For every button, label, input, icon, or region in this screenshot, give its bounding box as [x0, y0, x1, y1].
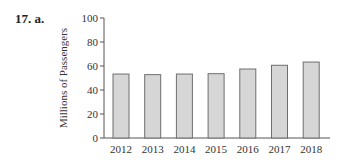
bar-2012: [113, 74, 129, 138]
bar-2014: [176, 74, 192, 138]
y-axis: 020406080100: [82, 12, 105, 144]
bars: [113, 62, 319, 138]
x-tick-label: 2018: [300, 143, 323, 155]
y-tick-label: 60: [87, 60, 99, 72]
x-tick-label: 2012: [110, 143, 132, 155]
y-axis-label: Millions of Passengers: [57, 28, 69, 128]
x-tick-label: 2014: [173, 143, 196, 155]
y-tick-label: 40: [87, 84, 99, 96]
y-tick-label: 100: [82, 12, 99, 24]
x-axis: 2012201320142015201620172018: [104, 138, 330, 155]
bar-2018: [303, 62, 319, 138]
x-tick-label: 2016: [237, 143, 260, 155]
y-tick-label: 0: [93, 132, 99, 144]
y-tick-label: 80: [87, 36, 99, 48]
bar-chart: 020406080100 201220132014201520162017201…: [0, 0, 344, 160]
bar-2017: [272, 65, 288, 138]
bar-2016: [240, 69, 256, 138]
x-tick-label: 2013: [142, 143, 165, 155]
bar-2013: [145, 75, 161, 138]
y-tick-label: 20: [87, 108, 99, 120]
x-tick-label: 2015: [205, 143, 228, 155]
x-tick-label: 2017: [269, 143, 292, 155]
bar-2015: [208, 74, 224, 138]
